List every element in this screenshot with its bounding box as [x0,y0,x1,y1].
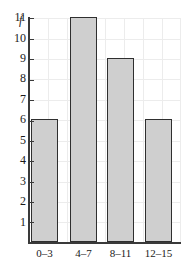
gridline-vertical [67,18,68,243]
gridline-vertical [105,18,106,243]
y-axis-tick [30,80,34,81]
y-tick-label: 11 [2,11,26,23]
histogram-bar [107,58,134,242]
y-axis-tick [30,161,34,162]
y-tick-label: 3 [2,175,26,187]
y-tick-label: 9 [2,52,26,64]
y-tick-label: 4 [2,154,26,166]
gridline-vertical [180,18,181,243]
y-axis-tick [30,39,34,40]
x-axis-line [28,242,181,244]
y-tick-label: 1 [2,216,26,228]
y-axis-tick [30,18,34,19]
gridline-vertical [143,18,144,243]
y-tick-label: 2 [2,195,26,207]
y-axis-tick [30,100,34,101]
y-axis-tick [30,141,34,142]
y-axis-tick [30,202,34,203]
y-tick-label: 5 [2,134,26,146]
histogram-bar [31,119,58,242]
y-tick-label: 8 [2,72,26,84]
y-tick-label: 10 [2,32,26,44]
y-tick-label: 7 [2,93,26,105]
y-axis-tick [30,222,34,223]
histogram-bar [70,17,97,242]
y-tick-label: 6 [2,113,26,125]
y-axis-tick [30,59,34,60]
y-axis-tick-labels: 11 10 9 8 7 6 5 4 3 2 1 [0,0,26,279]
y-axis-tick [30,182,34,183]
histogram-chart: f 11 10 9 8 7 6 5 4 3 2 1 0–3 4–7 8–11 1… [0,0,183,279]
y-axis-line [28,17,30,244]
histogram-bar [145,119,172,242]
x-tick-label: 12–15 [129,247,184,259]
y-axis-tick [30,121,34,122]
